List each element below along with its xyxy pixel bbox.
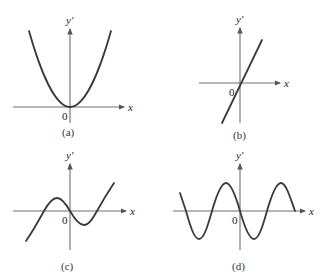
linear-curve [222, 40, 262, 123]
y-axis-label: y′ [235, 13, 244, 25]
x-axis-label: x [127, 101, 133, 113]
x-axis-label: x [308, 205, 314, 217]
y-axis-label: y′ [65, 149, 74, 161]
figure-canvas: y′ x 0 (a) y′ x 0 (b) y′ x 0 (c) y′ x 0 … [0, 0, 324, 276]
x-axis-label: x [283, 77, 289, 89]
panel-d: y′ x 0 (d) [173, 149, 314, 273]
caption-a: (a) [62, 126, 75, 139]
origin-label: 0 [62, 214, 68, 226]
caption-b: (b) [233, 129, 246, 142]
origin-label: 0 [62, 110, 68, 122]
panel-a: y′ x 0 (a) [13, 14, 133, 139]
y-axis-label: y′ [235, 149, 244, 161]
caption-c: (c) [61, 260, 74, 273]
origin-label: 0 [232, 214, 238, 226]
caption-d: (d) [232, 260, 245, 273]
y-axis-label: y′ [65, 14, 74, 26]
panel-c: y′ x 0 (c) [13, 149, 135, 273]
x-axis-label: x [129, 205, 135, 217]
panel-b: y′ x 0 (b) [199, 13, 289, 142]
origin-label: 0 [229, 86, 235, 98]
